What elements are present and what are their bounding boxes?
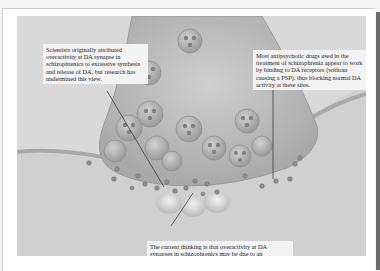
synapse-figure: Scientists originally attributed overact… [17, 16, 366, 256]
page-edge-shadow [376, 12, 380, 270]
callout-current-thinking: The current thinking is that overactivit… [147, 241, 293, 256]
presynaptic-terminal [100, 16, 318, 186]
callout-antipsychotic-action: Most antipsychotic drugs used in the tre… [253, 50, 366, 90]
callout-original-hypothesis: Scientists originally attributed overact… [43, 44, 148, 84]
